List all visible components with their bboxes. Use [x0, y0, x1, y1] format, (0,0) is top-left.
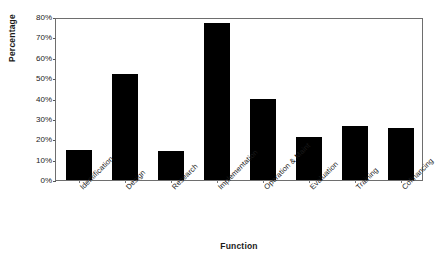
x-label-wrap: Research — [147, 183, 193, 238]
x-label-wrap: Implementation — [193, 183, 239, 238]
bar-slot — [378, 19, 424, 180]
y-tick-label: 70% — [22, 34, 52, 42]
bar — [250, 99, 276, 181]
y-tick-label: 0% — [22, 177, 52, 185]
y-tick-label: 40% — [22, 96, 52, 104]
x-label-wrap: Training — [331, 183, 377, 238]
x-axis-tick-labels: IdentificationDesignResearchImplementati… — [55, 183, 423, 238]
bar — [204, 23, 230, 180]
y-axis-tick-labels: 0%10%20%30%40%50%60%70%80% — [22, 12, 52, 187]
x-label-wrap: Evaluation — [285, 183, 331, 238]
y-tick-label: 10% — [22, 157, 52, 165]
x-label-wrap: Operation & Maint — [239, 183, 285, 238]
bar-chart-figure: Percentage 0%10%20%30%40%50%60%70%80% Id… — [0, 0, 437, 263]
x-axis-title: Function — [55, 241, 423, 251]
x-label-wrap: Design — [101, 183, 147, 238]
y-tick-mark — [53, 181, 56, 182]
y-tick-label: 50% — [22, 75, 52, 83]
x-label-wrap: Cofinancing — [377, 183, 423, 238]
bar — [342, 126, 368, 180]
bar — [112, 74, 138, 180]
y-axis-title: Percentage — [4, 0, 20, 78]
bar-slot — [194, 19, 240, 180]
y-tick-label: 30% — [22, 116, 52, 124]
y-tick-label: 20% — [22, 136, 52, 144]
y-tick-label: 60% — [22, 55, 52, 63]
y-tick-label: 80% — [22, 14, 52, 22]
bar-slot — [56, 19, 102, 180]
bar-slot — [332, 19, 378, 180]
bar-slot — [148, 19, 194, 180]
bar — [388, 128, 414, 180]
x-label-wrap: Identification — [55, 183, 101, 238]
